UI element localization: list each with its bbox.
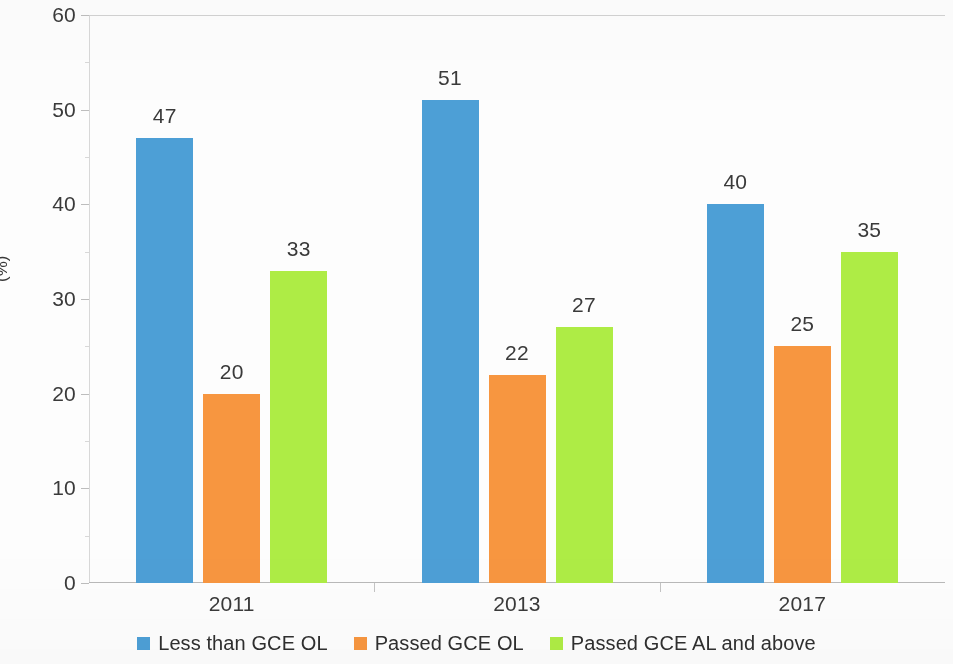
x-axis-tick-label: 2013 [374, 592, 659, 616]
bar-value-label: 22 [489, 341, 546, 365]
y-axis-minor-tick [85, 536, 89, 537]
y-axis-tick [81, 15, 89, 16]
y-axis-tick-label: 0 [6, 571, 76, 595]
y-axis-tick-label: 50 [6, 98, 76, 122]
y-axis-tick [81, 204, 89, 205]
plot-area: 472033512227402535 [89, 15, 945, 583]
y-axis-tick-label: 10 [6, 476, 76, 500]
bar[interactable] [707, 204, 764, 583]
y-axis-line [89, 15, 90, 583]
x-axis-tick-label: 2017 [660, 592, 945, 616]
bar-value-label: 47 [136, 104, 193, 128]
y-axis-tick [81, 488, 89, 489]
bar[interactable] [422, 100, 479, 583]
legend-swatch-icon [354, 637, 367, 650]
bar-value-label: 35 [841, 218, 898, 242]
y-axis-tick-label: 60 [6, 3, 76, 27]
y-axis-tick [81, 299, 89, 300]
y-axis-tick [81, 583, 89, 584]
gridline [89, 15, 945, 16]
y-axis-minor-tick [85, 62, 89, 63]
legend-item[interactable]: Less than GCE OL [137, 632, 327, 655]
legend-item[interactable]: Passed GCE OL [354, 632, 524, 655]
y-axis-minor-tick [85, 252, 89, 253]
legend-swatch-icon [137, 637, 150, 650]
bar[interactable] [489, 375, 546, 583]
bar-value-label: 27 [556, 293, 613, 317]
x-axis-labels: 201120132017 [89, 592, 945, 624]
category-separator-tick [660, 583, 661, 592]
y-axis-tick [81, 394, 89, 395]
bar-value-label: 51 [422, 66, 479, 90]
bar-value-label: 20 [203, 360, 260, 384]
legend-item-label: Passed GCE AL and above [571, 632, 816, 655]
y-axis-labels: 0102030405060 [0, 15, 76, 583]
bar[interactable] [203, 394, 260, 583]
legend-item-label: Less than GCE OL [158, 632, 327, 655]
bar-value-label: 40 [707, 170, 764, 194]
y-axis-minor-tick [85, 441, 89, 442]
y-axis-minor-tick [85, 346, 89, 347]
bar[interactable] [136, 138, 193, 583]
bar[interactable] [774, 346, 831, 583]
y-axis-tick-label: 30 [6, 287, 76, 311]
legend-swatch-icon [550, 637, 563, 650]
y-axis-tick [81, 110, 89, 111]
y-axis-title: (%) [0, 256, 12, 282]
y-axis-tick-label: 20 [6, 382, 76, 406]
y-axis-minor-tick [85, 157, 89, 158]
bar-value-label: 33 [270, 237, 327, 261]
legend-item[interactable]: Passed GCE AL and above [550, 632, 816, 655]
bar-chart: 0102030405060 (%) 472033512227402535 201… [0, 0, 953, 664]
legend-item-label: Passed GCE OL [375, 632, 524, 655]
x-axis-tick-label: 2011 [89, 592, 374, 616]
bar-value-label: 25 [774, 312, 831, 336]
chart-legend: Less than GCE OLPassed GCE OLPassed GCE … [0, 632, 953, 655]
y-axis-tick-label: 40 [6, 192, 76, 216]
category-separator-tick [374, 583, 375, 592]
bar[interactable] [841, 252, 898, 583]
bar[interactable] [556, 327, 613, 583]
bar[interactable] [270, 271, 327, 583]
